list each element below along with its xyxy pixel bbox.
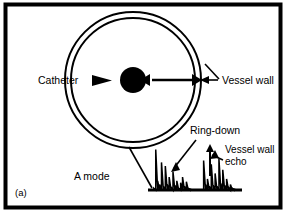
a-mode-label: A mode bbox=[74, 170, 110, 182]
ring-down-label: Ring-down bbox=[190, 124, 240, 136]
vessel-wall-echo-label-line2: echo bbox=[225, 156, 247, 167]
catheter-label: Catheter bbox=[38, 74, 79, 86]
ivus-a-mode-diagram: Catheter Vessel wall A mode Ring-down Ve… bbox=[0, 0, 286, 214]
figure-frame bbox=[6, 5, 281, 208]
vessel-wall-label: Vessel wall bbox=[222, 74, 274, 86]
vessel-wall-echo-label-line1: Vessel wall bbox=[225, 144, 274, 155]
panel-tag: (a) bbox=[15, 187, 27, 198]
figure-panel-a: Catheter Vessel wall A mode Ring-down Ve… bbox=[0, 0, 286, 214]
